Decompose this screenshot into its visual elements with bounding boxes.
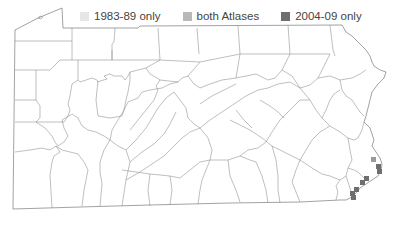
occurrence-block-2004-09 xyxy=(377,169,382,174)
occurrence-block-2004-09 xyxy=(351,195,356,200)
pennsylvania-county-map xyxy=(0,0,394,225)
occurrence-block-both xyxy=(371,157,376,162)
occurrence-block-2004-09 xyxy=(360,180,365,185)
state-outline xyxy=(13,8,386,209)
